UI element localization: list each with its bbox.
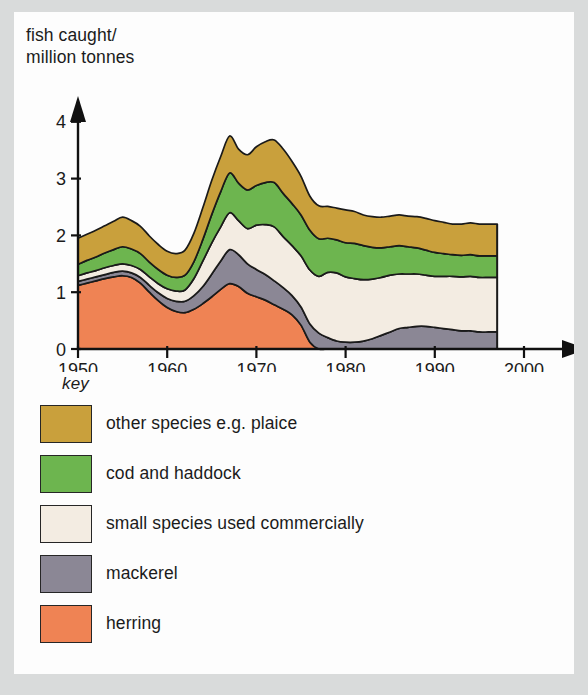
legend-swatch xyxy=(40,505,92,543)
y-tick-label: 2 xyxy=(56,226,66,246)
legend-item: small species used commercially xyxy=(40,500,560,547)
figure-sheet: fish caught/million tonnes 0123419501960… xyxy=(14,12,574,674)
plot-area: 01234195019601970198019902000 xyxy=(14,12,574,372)
legend-swatch xyxy=(40,405,92,443)
x-tick-label: 2000 xyxy=(504,360,544,372)
x-axis-arrowhead xyxy=(562,340,574,358)
legend-item: other species e.g. plaice xyxy=(40,400,560,447)
legend-swatch xyxy=(40,455,92,493)
y-tick-label: 4 xyxy=(56,112,66,132)
chart-legend: key other species e.g. plaicecod and had… xyxy=(40,374,560,650)
series-areas xyxy=(78,136,497,350)
legend-label: cod and haddock xyxy=(106,463,241,484)
legend-label: mackerel xyxy=(106,563,178,584)
x-tick-label: 1980 xyxy=(326,360,366,372)
y-tick-label: 0 xyxy=(56,340,66,360)
legend-swatch xyxy=(40,605,92,643)
y-tick-label: 1 xyxy=(56,283,66,303)
legend-item: mackerel xyxy=(40,550,560,597)
legend-label: small species used commercially xyxy=(106,513,364,534)
legend-swatch xyxy=(40,555,92,593)
legend-items: other species e.g. plaicecod and haddock… xyxy=(40,400,560,647)
legend-item: cod and haddock xyxy=(40,450,560,497)
legend-label: herring xyxy=(106,613,161,634)
x-tick-label: 1960 xyxy=(147,360,187,372)
legend-title: key xyxy=(62,374,560,394)
x-tick-label: 1970 xyxy=(236,360,276,372)
legend-label: other species e.g. plaice xyxy=(106,413,297,434)
stacked-area-chart: 01234195019601970198019902000 xyxy=(14,12,574,372)
x-tick-label: 1990 xyxy=(415,360,455,372)
x-tick-label: 1950 xyxy=(58,360,98,372)
y-tick-label: 3 xyxy=(56,169,66,189)
y-axis-arrowhead xyxy=(70,96,86,122)
page-background: fish caught/million tonnes 0123419501960… xyxy=(0,0,588,695)
legend-item: herring xyxy=(40,600,560,647)
